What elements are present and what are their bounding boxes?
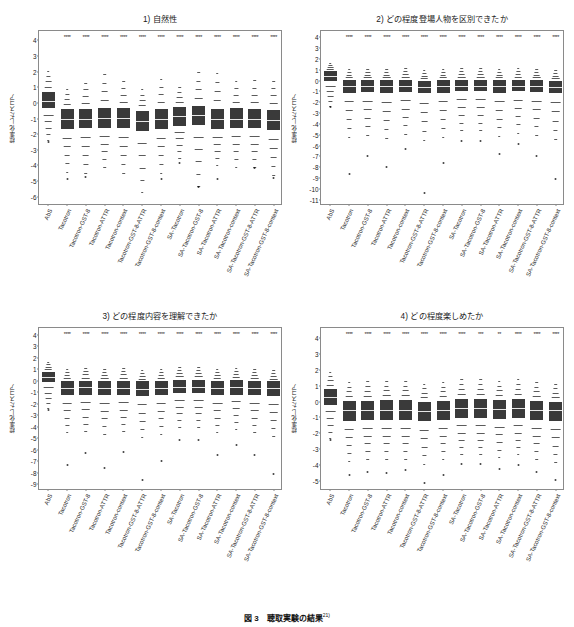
box-slice — [213, 378, 221, 379]
box-slice — [231, 380, 241, 381]
box-slice — [253, 159, 257, 160]
box-slice — [495, 395, 503, 396]
box-slice — [328, 65, 332, 66]
box-slice — [137, 381, 147, 382]
box-slice — [534, 75, 540, 76]
x-tick-label-2-12: SA-Tacotron-GST-8-context — [524, 208, 561, 277]
box-slice — [384, 390, 390, 391]
outlier-point — [498, 468, 500, 470]
box-slice — [102, 151, 108, 152]
y-tick-label-1-5: -1 — [31, 115, 37, 122]
box-slice — [81, 109, 91, 110]
x-tick-label-3-2: Tacotron-GST-8 — [68, 493, 91, 534]
y-tick-mark-1-2 — [37, 71, 39, 72]
box-slice — [82, 378, 90, 379]
outlier-point — [386, 166, 388, 168]
box-slice — [460, 384, 464, 385]
box-slice — [329, 372, 332, 373]
box-slice — [457, 99, 467, 100]
box-slice — [551, 402, 561, 403]
box-slice — [178, 370, 182, 371]
x-tick-label-1-12: SA-Tacotron-GST-8-context — [242, 208, 279, 277]
box-1-2 — [79, 31, 92, 206]
x-tick-mark-2-12 — [555, 204, 556, 206]
box-slice — [361, 80, 374, 92]
box-slice — [84, 371, 88, 372]
box-slice — [402, 436, 410, 437]
box-slice — [120, 410, 128, 411]
box-slice — [272, 373, 276, 374]
box-slice — [216, 369, 219, 370]
box-1-11 — [248, 31, 261, 206]
box-slice — [478, 71, 482, 72]
box-slice — [402, 109, 410, 110]
box-slice — [419, 430, 429, 431]
y-tick-label-3-10: -6 — [31, 446, 37, 453]
outlier-point — [254, 167, 256, 169]
chart-panel-4: 4) どの程度楽しめたか43210-1-2-3-4-5AbSTacotron**… — [0, 0, 574, 627]
y-tick-label-2-4: 0 — [315, 77, 319, 84]
y-tick-mark-2-0 — [319, 37, 321, 38]
box-slice — [272, 166, 276, 167]
box-slice — [382, 102, 392, 103]
box-slice — [230, 108, 243, 128]
box-slice — [156, 381, 166, 382]
x-tick-mark-2-1 — [349, 204, 350, 206]
box-1-12 — [267, 31, 280, 206]
box-slice — [497, 450, 501, 451]
box-slice — [267, 110, 280, 130]
significance-marker-2-11: **** — [533, 34, 540, 40]
plot-area-1: 43210-1-2-3-4-5-6AbSTacotron****Tacotron… — [38, 30, 282, 205]
box-slice — [44, 387, 54, 388]
box-3-5 — [136, 328, 149, 491]
box-slice — [441, 451, 445, 452]
plot-area-2: 43210-1-2-3-4-5-6-7-8-9-10-11AbSTacotron… — [320, 30, 564, 205]
box-slice — [177, 145, 183, 146]
significance-marker-4-3: **** — [383, 331, 390, 337]
outlier-point — [517, 143, 519, 145]
box-slice — [103, 434, 106, 435]
y-tick-label-3-4: 0 — [33, 377, 37, 384]
outlier-point — [498, 153, 500, 155]
x-tick-label-1-6: Tacotron-GST-8-context — [134, 208, 166, 268]
outlier-point — [442, 162, 444, 164]
box-3-4 — [117, 328, 130, 491]
y-tick-label-2-11: -7 — [313, 153, 319, 160]
y-tick-mark-3-0 — [37, 334, 39, 335]
outlier-point — [517, 464, 519, 466]
box-slice — [438, 401, 448, 402]
box-slice — [439, 436, 447, 437]
box-slice — [346, 391, 352, 392]
box-slice — [496, 390, 502, 391]
box-slice — [329, 106, 332, 107]
y-tick-mark-4-2 — [319, 369, 321, 370]
significance-marker-4-2: **** — [365, 331, 372, 337]
y-tick-mark-2-13 — [319, 177, 321, 178]
box-slice — [346, 445, 352, 446]
x-tick-mark-1-4 — [123, 204, 124, 206]
box-slice — [365, 443, 371, 444]
box-slice — [136, 381, 149, 396]
box-slice — [119, 108, 129, 109]
y-tick-label-3-1: 3 — [33, 343, 37, 350]
box-slice — [327, 67, 333, 68]
significance-marker-2-12: **** — [552, 34, 559, 40]
significance-marker-3-10: **** — [233, 331, 240, 337]
significance-marker-4-12: **** — [552, 331, 559, 337]
box-slice — [254, 167, 257, 168]
box-slice — [404, 134, 407, 135]
median-line — [455, 408, 468, 409]
box-slice — [121, 155, 127, 156]
box-slice — [66, 89, 69, 90]
box-slice — [458, 77, 466, 78]
y-tick-label-2-15: -11 — [310, 196, 319, 203]
box-slice — [103, 159, 107, 160]
box-slice — [423, 464, 426, 465]
y-tick-label-4-8: -4 — [313, 462, 319, 469]
x-tick-mark-4-10 — [518, 489, 519, 491]
panel-title-4: 4) どの程度楽しめたか — [320, 309, 564, 321]
box-slice — [194, 106, 204, 107]
box-slice — [214, 375, 220, 376]
y-tick-mark-3-10 — [37, 449, 39, 450]
outlier-point — [85, 176, 87, 178]
